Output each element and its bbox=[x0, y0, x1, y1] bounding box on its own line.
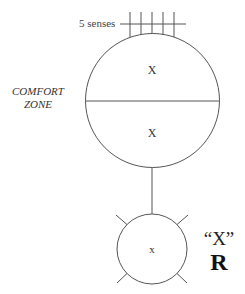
result-r-label: R bbox=[199, 249, 239, 276]
conscious-mind-label: X bbox=[142, 63, 162, 78]
comfort-zone-line2: ZONE bbox=[4, 98, 72, 111]
diagram-canvas: 5 senses COMFORT ZONE X X x “X” R bbox=[0, 0, 245, 294]
comfort-zone-line1: COMFORT bbox=[4, 85, 72, 98]
comfort-zone-label: COMFORT ZONE bbox=[4, 85, 72, 111]
subconscious-mind-label: X bbox=[142, 126, 162, 141]
senses-label: 5 senses bbox=[79, 18, 115, 29]
body-label: x bbox=[142, 243, 162, 255]
quoted-x-label: “X” bbox=[199, 228, 239, 250]
